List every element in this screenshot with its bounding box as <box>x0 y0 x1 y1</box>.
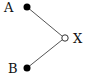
edge-a-x <box>27 7 62 36</box>
edge-b-x <box>27 40 62 68</box>
node-a-dot <box>24 4 31 11</box>
diagram-canvas: A B X <box>0 0 88 77</box>
node-b-label: B <box>8 61 18 76</box>
node-a-label: A <box>3 0 14 15</box>
node-x-dot <box>62 35 68 41</box>
node-x-label: X <box>73 31 83 46</box>
node-b-dot <box>24 65 31 72</box>
